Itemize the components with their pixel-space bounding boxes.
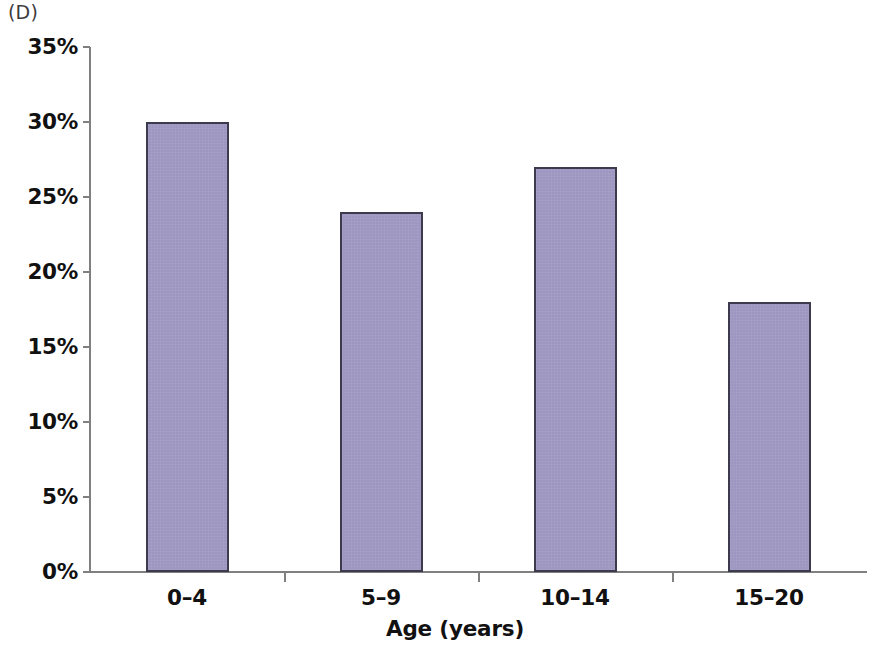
y-axis-tick-label: 10% [0, 411, 78, 433]
y-axis-tick [83, 421, 90, 423]
x-axis-category-label: 0–4 [90, 586, 284, 610]
x-axis-category-label: 15–20 [672, 586, 866, 610]
y-axis-tick-label: 35% [0, 36, 78, 58]
y-axis-tick-label: 25% [0, 186, 78, 208]
bar [146, 122, 229, 572]
x-axis-tick [284, 573, 286, 582]
y-axis-tick [83, 121, 90, 123]
bar [728, 302, 811, 572]
y-axis-tick [83, 271, 90, 273]
y-axis-line [89, 47, 91, 573]
y-axis-tick [83, 46, 90, 48]
y-axis-tick [83, 571, 90, 573]
x-axis-tick [478, 573, 480, 582]
y-axis-tick-label: 20% [0, 261, 78, 283]
y-axis-tick [83, 196, 90, 198]
y-axis-tick-label: 30% [0, 111, 78, 133]
y-axis-tick [83, 496, 90, 498]
x-axis-category-label: 10–14 [478, 586, 672, 610]
bar [340, 212, 423, 572]
y-axis-tick-label: 15% [0, 336, 78, 358]
y-axis-tick-label: 5% [0, 486, 78, 508]
x-axis-category-label: 5–9 [284, 586, 478, 610]
y-axis-tick [83, 346, 90, 348]
y-axis-tick-label: 0% [0, 561, 78, 583]
bar [534, 167, 617, 572]
x-axis-tick [672, 573, 674, 582]
x-axis-title: Age (years) [0, 617, 894, 641]
panel-label: (D) [8, 3, 38, 22]
x-axis-title-text: Age (years) [386, 617, 524, 641]
